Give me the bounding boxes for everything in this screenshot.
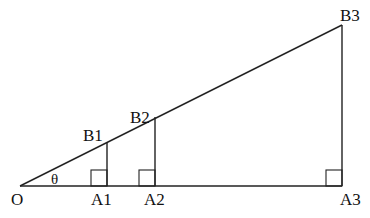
label-B3: B3 [340, 6, 360, 25]
angle-label-theta: θ [51, 171, 58, 187]
label-A1: A1 [91, 190, 112, 209]
label-A2: A2 [144, 190, 165, 209]
triangle-diagram: O A1 A2 A3 B1 B2 B3 θ [0, 0, 370, 218]
label-A3: A3 [340, 190, 361, 209]
label-B2: B2 [130, 108, 150, 127]
label-B1: B1 [83, 126, 103, 145]
right-angle-marker-A3 [326, 170, 342, 186]
right-angle-marker-A1 [91, 170, 107, 186]
hypotenuse-OB3 [20, 25, 342, 186]
label-O: O [11, 190, 23, 209]
right-angle-marker-A2 [139, 170, 155, 186]
